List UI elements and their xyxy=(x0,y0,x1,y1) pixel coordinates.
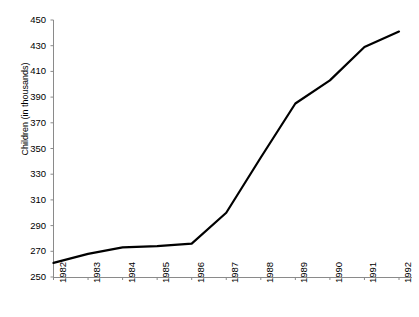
plot-area xyxy=(0,0,419,317)
axis-lines xyxy=(54,20,413,278)
data-series-line xyxy=(54,32,400,263)
chart-container: Children (in thousands) 2502702903103303… xyxy=(0,0,419,317)
